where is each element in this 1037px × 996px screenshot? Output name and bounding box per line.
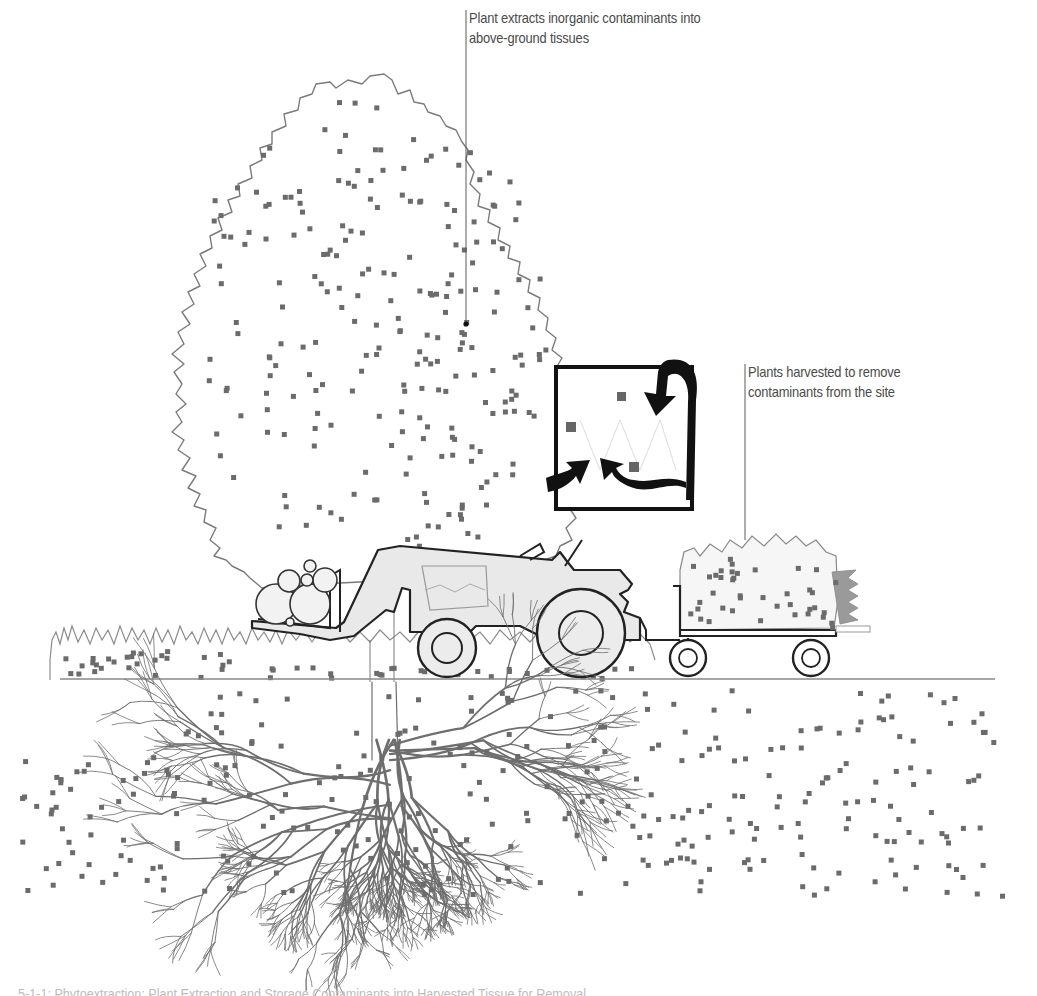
annotation-harvest-line-1: Plants harvested to remove [748, 362, 901, 382]
illustration-canvas [0, 0, 1037, 996]
annotation-extraction-line-1: Plant extracts inorganic contaminants in… [469, 8, 701, 28]
figure-caption: 5-1-1: Phytoextraction: Plant Extraction… [18, 986, 586, 996]
uptake-inset [546, 359, 697, 509]
trailer [670, 534, 870, 676]
annotation-harvest-line-2: contaminants from the site [748, 382, 901, 402]
phytoextraction-illustration: Plant extracts inorganic contaminants in… [0, 0, 1037, 996]
annotation-harvest: Plants harvested to remove contaminants … [748, 362, 901, 402]
tree-canopy [172, 74, 576, 588]
tractor [252, 540, 680, 677]
annotation-extraction-line-2: above-ground tissues [469, 28, 701, 48]
tree-contaminant-particles [207, 100, 549, 556]
annotation-extraction: Plant extracts inorganic contaminants in… [469, 8, 701, 48]
